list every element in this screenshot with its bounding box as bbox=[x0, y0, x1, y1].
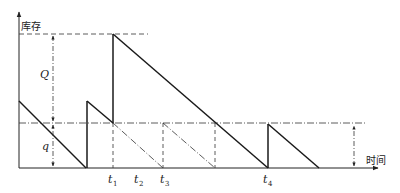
y-axis-label: 库存 bbox=[21, 20, 41, 32]
inventory-line-2 bbox=[87, 101, 113, 123]
time-mark-t1: t 1 bbox=[108, 173, 117, 188]
svg-text:2: 2 bbox=[139, 180, 143, 188]
inventory-line-1 bbox=[19, 101, 86, 168]
svg-text:1: 1 bbox=[113, 180, 117, 188]
svg-text:4: 4 bbox=[268, 180, 273, 188]
time-mark-t2: t 2 bbox=[134, 173, 143, 188]
order-quantity-label: Q bbox=[40, 68, 49, 81]
svg-text:3: 3 bbox=[165, 180, 169, 188]
projected-line-2 bbox=[163, 123, 215, 168]
time-mark-t3: t 3 bbox=[160, 173, 169, 188]
inventory-diagram: 库存 时间 Q q t 1 t 2 t 3 t 4 bbox=[0, 0, 400, 193]
inventory-line-3 bbox=[113, 34, 268, 168]
projected-line-1 bbox=[113, 123, 163, 168]
reorder-level-label: q bbox=[42, 140, 49, 153]
time-mark-t4: t 4 bbox=[263, 173, 273, 188]
inventory-line-4 bbox=[268, 124, 319, 168]
x-axis-label: 时间 bbox=[366, 154, 386, 166]
